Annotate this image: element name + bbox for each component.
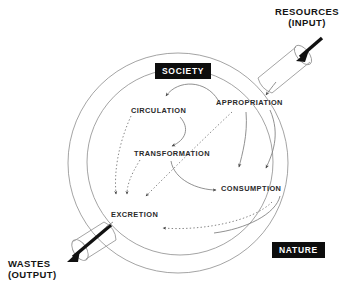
process-transformation-label: TRANSFORMATION <box>134 150 210 159</box>
arrow-consumption-to-excretion <box>163 202 272 229</box>
wastes-output-label: WASTES (OUTPUT) <box>8 258 84 280</box>
process-appropriation-label: APPROPRIATION <box>216 99 283 108</box>
arrow-transformation-to-excretion <box>127 160 140 194</box>
society-label-box: SOCIETY <box>155 63 211 79</box>
arrow-appropriation-to-stock <box>239 112 246 167</box>
arrow-appropriation-to-circulation <box>166 84 218 100</box>
wastes-output-label-line1: WASTES <box>8 258 84 269</box>
arrow-appropriation-to-consumption <box>266 110 275 168</box>
nature-label-box: NATURE <box>272 242 325 258</box>
diagram-canvas: SOCIETY NATURE RESOURCES (INPUT) WASTES … <box>0 0 349 300</box>
resources-input-arrow <box>296 38 322 62</box>
resources-input-label: RESOURCES (INPUT) <box>270 6 344 28</box>
process-consumption-label: CONSUMPTION <box>221 185 281 194</box>
resources-input-label-line1: RESOURCES <box>270 6 344 17</box>
wastes-output-label-line2: (OUTPUT) <box>8 269 84 280</box>
process-excretion-label: EXCRETION <box>111 211 158 220</box>
process-circulation-label: CIRCULATION <box>131 107 186 116</box>
wastes-output-arrow <box>67 225 111 262</box>
resources-input-label-line2: (INPUT) <box>270 17 344 28</box>
arrow-circulation-to-excretion <box>116 116 131 194</box>
arrow-transformation-to-consumption <box>171 161 216 190</box>
arrow-consumption-return <box>214 196 280 233</box>
arrow-circulation-to-transformation <box>172 117 186 146</box>
figure-caption-cropped <box>0 291 349 300</box>
